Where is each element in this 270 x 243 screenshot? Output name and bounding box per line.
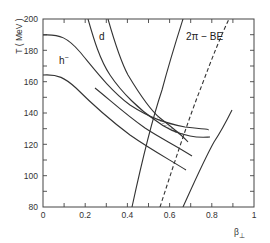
y-tick-label: 140 xyxy=(24,108,38,118)
y-tick-labels: 80 100 120 140 160 180 200 xyxy=(24,14,38,212)
y-axis-title: T ( MeV ) xyxy=(14,18,24,53)
label-h-minus-sup: − xyxy=(65,54,69,61)
x-tick-labels: 0 0.2 0.4 0.6 0.8 1 xyxy=(41,210,257,220)
y-tick-label: 100 xyxy=(24,171,38,181)
curve-2pi-be xyxy=(160,19,229,207)
y-tick-label: 80 xyxy=(29,202,39,212)
label-h-minus: h− xyxy=(59,54,69,66)
label-2pi-be: 2π − BE xyxy=(186,31,224,42)
x-tick-label: 0.6 xyxy=(164,210,176,220)
label-d: d xyxy=(99,31,105,42)
y-tick-label: 160 xyxy=(24,77,38,87)
x-axis-title: β⊥ xyxy=(234,227,245,239)
x-axis-ticks xyxy=(64,19,233,207)
y-tick-label: 180 xyxy=(24,46,38,56)
y-axis-ticks xyxy=(43,35,254,192)
curve-d-right xyxy=(108,19,188,142)
y-tick-label: 200 xyxy=(24,14,38,24)
x-tick-label: 0.8 xyxy=(206,210,218,220)
x-tick-label: 0.2 xyxy=(79,210,91,220)
x-tick-label: 1 xyxy=(252,210,257,220)
curve-h-minus-lower xyxy=(43,75,186,170)
curves xyxy=(43,19,232,207)
x-axis-title-subscript: ⊥ xyxy=(239,232,245,239)
chart: 0 0.2 0.4 0.6 0.8 1 80 100 120 140 160 1… xyxy=(0,0,270,243)
plot-frame xyxy=(43,19,254,207)
x-tick-label: 0.4 xyxy=(121,210,133,220)
y-tick-label: 120 xyxy=(24,140,38,150)
curve-beta-left xyxy=(132,19,183,207)
curve-h-minus-upper xyxy=(43,35,208,130)
x-tick-label: 0 xyxy=(41,210,46,220)
curve-beta-right xyxy=(183,110,232,207)
